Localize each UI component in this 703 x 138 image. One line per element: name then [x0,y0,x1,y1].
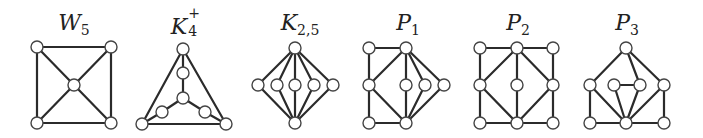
graph-vertex [105,117,117,129]
graph-vertex [105,41,117,53]
graph-label-subscript: 2,5 [297,22,319,38]
graph-p3 [584,42,670,129]
graph-label-main: P [615,10,630,35]
graph-label-main: W [58,10,81,35]
graph-label-subscript: 1 [411,22,420,38]
graph-vertex [620,117,632,129]
graph-vertex [511,42,523,54]
graph-vertex [177,43,189,55]
graph-vertex [400,42,412,54]
graph-vertex [620,42,632,54]
graph-vertex [289,42,301,54]
graph-k2-5 [252,42,339,129]
graph-vertex [199,106,211,118]
graph-vertex [156,106,168,118]
graph-vertex [511,117,523,129]
graph-vertex [474,117,486,129]
graph-edge [480,85,517,123]
graph-label: P1 [396,12,420,34]
graph-vertex [308,79,320,91]
graph-figure [0,0,703,138]
graph-vertex [419,79,431,91]
graph-vertex [584,117,596,129]
graph-p1 [363,42,450,129]
graph-label-subscript: 4 [188,24,197,38]
graph-vertex [438,79,450,91]
graph-vertex [511,79,523,91]
graph-vertex [547,42,559,54]
graph-edge [369,85,406,123]
graph-label-main: K [281,10,297,35]
graph-vertex [177,67,189,79]
graph-vertex [634,79,646,91]
graph-k4- [136,43,232,130]
graph-label-subscript: 5 [81,22,90,38]
graph-edge [517,48,553,85]
graph-edge [37,47,74,85]
graph-label-main: P [396,10,411,35]
graph-label: K+4 [171,12,197,38]
graph-label: W5 [58,12,90,34]
graph-edge [369,48,406,85]
graph-vertex [608,79,620,91]
graph-w5 [31,41,117,129]
graph-edge [626,48,664,85]
graph-vertex [400,79,412,91]
graph-vertex [177,92,189,104]
graph-edge [480,48,517,85]
graph-edge [517,85,553,123]
graph-label-subscript: 2 [521,22,530,38]
graph-vertex [400,117,412,129]
graph-label-superscript: + [188,6,200,20]
graph-vertex [31,41,43,53]
graph-label: P2 [506,12,530,34]
graph-label-main: K [171,14,187,39]
graph-vertex [289,79,301,91]
graph-vertex [547,79,559,91]
graph-vertex [68,79,80,91]
graph-vertex [363,79,375,91]
graph-vertex [547,117,559,129]
graph-vertex [474,79,486,91]
graph-edge [590,48,626,85]
graph-label: P3 [615,12,639,34]
graph-vertex [658,79,670,91]
graph-edge [74,47,111,85]
graph-vertex [327,79,339,91]
graph-vertex [220,118,232,130]
graph-edge [74,85,111,123]
graph-label-main: P [506,10,521,35]
graph-edge [37,85,74,123]
graph-vertex [289,117,301,129]
graph-label: K2,5 [281,12,320,34]
graph-vertex [363,117,375,129]
graph-label-subscript: 3 [630,22,639,38]
graph-vertex [271,79,283,91]
graph-vertex [31,117,43,129]
graph-vertex [474,42,486,54]
graph-p2 [474,42,559,129]
graph-vertex [584,79,596,91]
graph-vertex [252,79,264,91]
graph-vertex [363,42,375,54]
graph-vertex [136,118,148,130]
graph-edge [626,85,664,123]
graph-vertex [658,117,670,129]
